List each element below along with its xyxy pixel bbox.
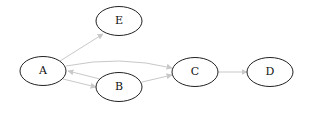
- node-c-label: C: [172, 65, 218, 79]
- node-a-label: A: [20, 64, 66, 78]
- node-e-label: E: [96, 14, 142, 28]
- edge-a-to-c: [66, 61, 172, 68]
- graph-canvas: A E B C D: [0, 0, 309, 114]
- edge-a-to-e: [60, 34, 103, 61]
- node-d-label: D: [247, 65, 293, 79]
- edge-b-to-c: [142, 75, 172, 82]
- node-b-label: B: [96, 80, 142, 94]
- edge-a-to-b: [63, 79, 96, 87]
- edge-b-to-a: [68, 71, 100, 79]
- graph-svg: [0, 0, 309, 114]
